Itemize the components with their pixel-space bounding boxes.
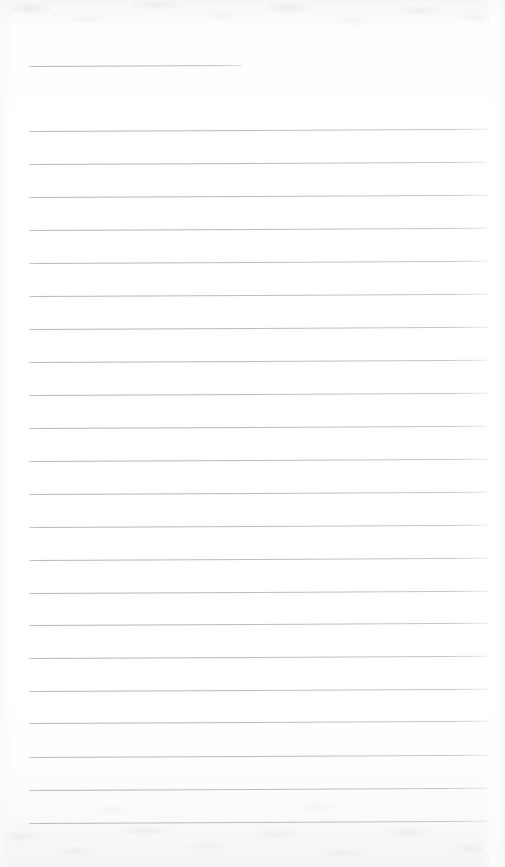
body-rule-line <box>29 788 487 791</box>
body-rule-line <box>29 327 487 330</box>
body-rule-line <box>29 689 487 692</box>
body-rule-line <box>29 721 487 724</box>
body-rule-line <box>29 294 487 297</box>
body-rule-line <box>29 393 487 396</box>
body-rule-line <box>29 129 487 132</box>
body-rule-line <box>29 261 487 264</box>
notebook-page <box>0 0 505 867</box>
body-rule-line <box>29 228 487 231</box>
title-rule-line <box>29 65 242 67</box>
body-rule-line <box>29 195 487 198</box>
body-rule-line <box>29 492 487 495</box>
body-rule-line <box>29 426 487 429</box>
body-rule-line <box>29 591 487 594</box>
body-rule-line <box>29 656 487 659</box>
body-rule-line <box>29 459 487 462</box>
body-rule-line <box>29 821 487 824</box>
body-rule-line <box>29 525 487 528</box>
body-rule-line <box>29 623 487 626</box>
body-rule-line <box>29 162 487 165</box>
body-rule-line <box>29 755 487 758</box>
body-rule-line <box>29 558 487 561</box>
body-rule-line <box>29 360 487 363</box>
ruled-lines-group <box>0 0 505 867</box>
